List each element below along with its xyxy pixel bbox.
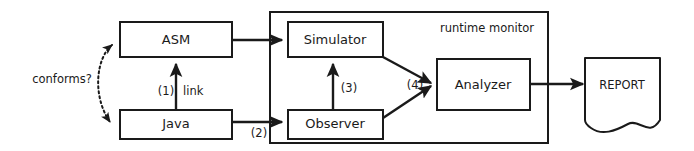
report-document-shape[interactable] — [585, 58, 660, 132]
runtime-monitor-label: runtime monitor — [440, 21, 534, 35]
report-label: REPORT — [599, 78, 645, 92]
link-step-label: (1) — [158, 84, 174, 98]
diagram-canvas: runtime monitor conforms? (1) link (2) (… — [0, 0, 694, 151]
observer-label: Observer — [305, 116, 365, 131]
java-label: Java — [161, 116, 189, 131]
conforms-arrow — [98, 45, 112, 122]
edge-link: (1) link — [158, 64, 204, 110]
workflow-diagram: runtime monitor conforms? (1) link (2) (… — [0, 0, 694, 151]
conforms-label: conforms? — [32, 72, 92, 86]
observer-simulator-label: (3) — [341, 81, 357, 95]
analyzer-label: Analyzer — [455, 77, 512, 92]
edge-observer-analyzer: (4) — [383, 78, 431, 119]
edge-conforms: conforms? — [32, 45, 112, 122]
node-report[interactable]: REPORT — [585, 58, 660, 132]
java-observer-label: (2) — [251, 126, 267, 140]
node-analyzer[interactable]: Analyzer — [437, 59, 530, 110]
node-asm[interactable]: ASM — [120, 22, 232, 57]
edge-observer-simulator: (3) — [333, 64, 357, 110]
edge-java-observer: (2) — [232, 122, 282, 140]
link-text-label: link — [183, 84, 204, 98]
node-observer[interactable]: Observer — [288, 110, 383, 139]
analyzer-input-label: (4) — [407, 78, 423, 92]
simulator-label: Simulator — [304, 32, 367, 47]
asm-label: ASM — [162, 32, 190, 47]
node-simulator[interactable]: Simulator — [288, 22, 383, 57]
node-java[interactable]: Java — [120, 110, 232, 139]
